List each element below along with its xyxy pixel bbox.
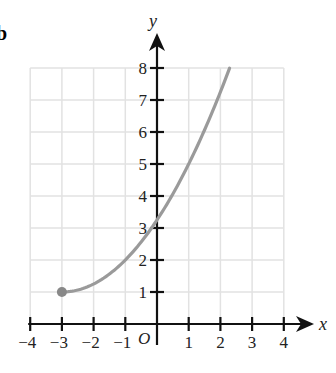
axes	[28, 33, 314, 345]
x-tick-label: 1	[184, 333, 193, 352]
x-tick-label: 4	[280, 333, 289, 352]
origin-label: O	[138, 329, 150, 348]
y-tick-label: 8	[139, 59, 148, 78]
y-tick-label: 4	[139, 187, 148, 206]
y-axis-label: y	[147, 11, 157, 31]
x-tick-label: 3	[248, 333, 257, 352]
y-tick-label: 7	[139, 91, 148, 110]
y-tick-label: 3	[139, 219, 148, 238]
x-axis-label: x	[318, 314, 327, 334]
x-tick-label: −2	[82, 333, 100, 352]
part-label: b	[0, 22, 7, 44]
y-tick-label: 2	[139, 251, 148, 270]
axis-labels: −4−3−2−1123412345678xyO	[18, 11, 327, 352]
graph: −4−3−2−1123412345678xyO b	[0, 0, 336, 373]
y-tick-label: 5	[139, 155, 148, 174]
x-tick-label: −4	[18, 333, 37, 352]
x-tick-label: −1	[113, 333, 131, 352]
x-tick-label: 2	[216, 333, 225, 352]
y-tick-label: 1	[139, 283, 148, 302]
closed-endpoint	[57, 287, 67, 297]
x-tick-label: −3	[50, 333, 68, 352]
y-tick-label: 6	[139, 123, 148, 142]
